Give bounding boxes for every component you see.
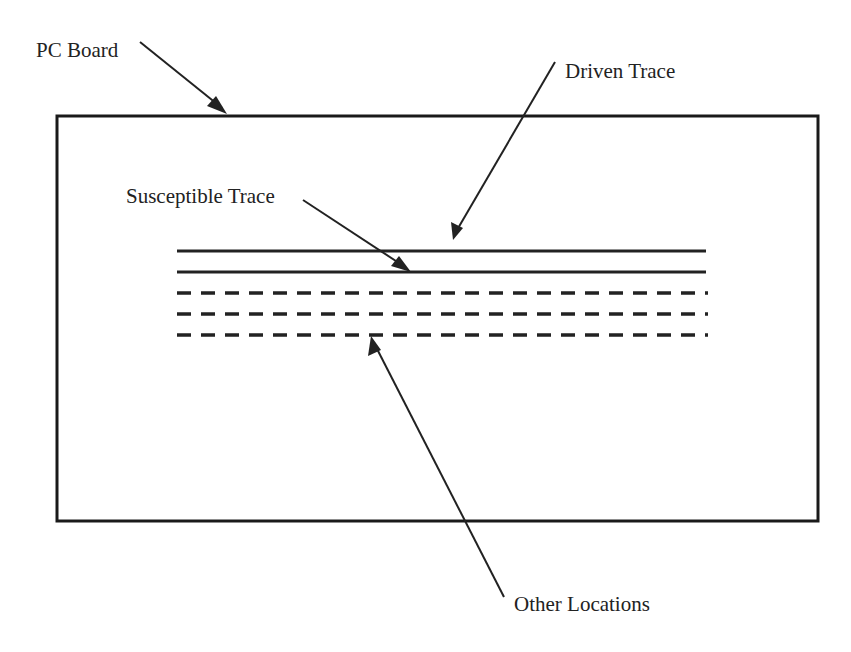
susceptible-trace-label: Susceptible Trace bbox=[126, 184, 275, 208]
driven-trace-label: Driven Trace bbox=[565, 59, 675, 83]
susceptible-trace-arrow-icon bbox=[303, 200, 411, 272]
driven-trace-arrow-icon bbox=[451, 62, 555, 240]
other-locations-label: Other Locations bbox=[514, 592, 650, 616]
pc-board-diagram: PC Board Driven Trace Susceptible Trace … bbox=[0, 0, 851, 652]
other-locations-arrow-icon bbox=[368, 336, 504, 597]
pc-board-label: PC Board bbox=[36, 38, 119, 62]
pc-board-arrow-icon bbox=[140, 42, 227, 114]
pc-board-outline bbox=[57, 116, 818, 521]
